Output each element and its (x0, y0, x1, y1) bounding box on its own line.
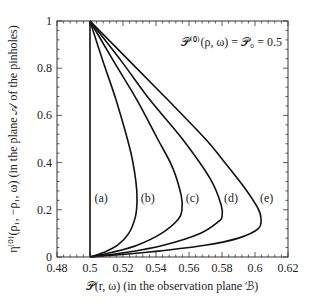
y-tick-label: 0.2 (37, 203, 52, 217)
plot-frame (57, 21, 288, 257)
y-tick-labels: 00.20.40.60.81 (37, 14, 52, 264)
y-tick-label: 0.6 (37, 108, 52, 122)
y-tick-label: 1 (46, 14, 52, 28)
ticks-layer (57, 21, 288, 257)
x-tick-label: 0.6 (248, 261, 263, 275)
x-tick-label: 0.56 (179, 261, 200, 275)
x-tick-labels: 0.480.50.520.540.560.580.60.62 (47, 261, 299, 275)
y-tick-label: 0.8 (37, 61, 52, 75)
curve-labels: (a)(b)(c)(d)(e) (94, 191, 273, 205)
y-tick-label: 0 (46, 250, 52, 264)
curve-label-e: (e) (260, 191, 273, 205)
curve-label-d: (d) (224, 191, 238, 205)
curve-c (90, 21, 182, 257)
annotation: 𝒫⁽⁰⁾(ρ, ω) = 𝒫₀ = 0.5 (181, 35, 282, 49)
x-tick-label: 0.52 (113, 261, 134, 275)
chart: 0.480.50.520.540.560.580.60.62 00.20.40.… (0, 0, 315, 302)
curve-label-a: (a) (94, 191, 107, 205)
y-axis-label: η⁽⁰⁾(ρ₁, −ρ₁, ω) (in the plane 𝒜 of the … (6, 25, 20, 253)
curve-label-b: (b) (141, 191, 155, 205)
x-tick-label: 0.54 (146, 261, 167, 275)
x-tick-label: 0.5 (83, 261, 98, 275)
y-tick-label: 0.4 (37, 156, 52, 170)
x-tick-label: 0.58 (212, 261, 233, 275)
x-axis-label: 𝒫(r, ω) (in the observation plane ℬ) (86, 279, 258, 293)
x-tick-label: 0.62 (278, 261, 299, 275)
curve-b (90, 21, 137, 257)
curve-label-c: (c) (186, 191, 199, 205)
curves-layer (90, 21, 261, 257)
curve-d (90, 21, 222, 257)
